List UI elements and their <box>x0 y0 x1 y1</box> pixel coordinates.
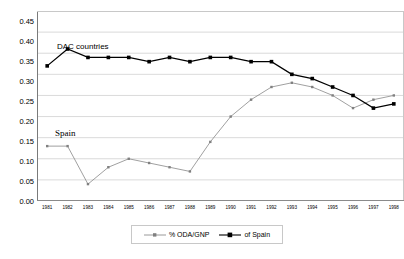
chart-legend: % ODA/GNP of Spain <box>131 225 283 244</box>
y-axis-tick-label: 0.20 <box>4 117 34 126</box>
y-axis-tick-label: 0.05 <box>4 177 34 186</box>
data-point-marker <box>46 145 48 147</box>
data-point-marker <box>147 60 151 64</box>
data-point-marker <box>331 94 333 96</box>
legend-marker-of-spain <box>219 231 241 239</box>
data-point-marker <box>86 56 90 60</box>
data-point-marker <box>310 77 314 81</box>
data-point-marker <box>229 115 231 117</box>
data-point-marker <box>189 170 191 172</box>
series-line <box>47 83 394 184</box>
x-axis-tick-label: 1986 <box>139 205 159 210</box>
x-axis-tick-label: 1987 <box>160 205 180 210</box>
y-axis-tick-label: 0.00 <box>4 197 34 206</box>
data-point-marker <box>372 106 376 110</box>
data-point-marker <box>311 86 313 88</box>
annotation-dac-countries: DAC countries <box>57 42 109 51</box>
chart-container: 0.45 0.40 0.35 0.30 0.25 0.20 0.15 0.10 … <box>0 0 404 259</box>
data-point-marker <box>128 158 130 160</box>
x-axis-tick-label: 1982 <box>58 205 78 210</box>
data-point-marker <box>392 102 396 106</box>
y-axis-tick-label: 0.25 <box>4 97 34 106</box>
x-axis-tick-label: 1988 <box>180 205 200 210</box>
data-point-marker <box>87 183 89 185</box>
data-point-marker <box>188 60 192 64</box>
data-point-marker <box>127 56 131 60</box>
data-point-marker <box>291 82 293 84</box>
y-axis-tick-label: 0.40 <box>4 37 34 46</box>
x-axis-tick-label: 1981 <box>37 205 57 210</box>
data-point-marker <box>393 94 395 96</box>
x-axis-tick-label: 1983 <box>78 205 98 210</box>
data-point-marker <box>270 60 274 64</box>
x-axis-tick-label: 1996 <box>343 205 363 210</box>
data-point-marker <box>250 98 252 100</box>
y-axis-tick-label: 0.10 <box>4 157 34 166</box>
x-axis-tick-label: 1994 <box>302 205 322 210</box>
data-point-marker <box>229 56 233 60</box>
x-axis-tick-label: 1989 <box>200 205 220 210</box>
y-axis-tick-label: 0.15 <box>4 137 34 146</box>
data-point-marker <box>372 98 374 100</box>
x-axis-tick-label: 1993 <box>282 205 302 210</box>
legend-label-of-spain: of Spain <box>244 231 270 238</box>
legend-marker-oda-gnp <box>144 231 166 239</box>
data-point-marker <box>45 64 49 68</box>
data-point-marker <box>351 94 355 98</box>
data-point-marker <box>249 60 253 64</box>
data-point-marker <box>107 56 111 60</box>
data-point-marker <box>270 86 272 88</box>
legend-item-oda-gnp: % ODA/GNP <box>144 231 209 239</box>
annotation-spain: Spain <box>55 128 76 138</box>
legend-item-of-spain: of Spain <box>219 231 270 239</box>
y-axis-tick-label: 0.30 <box>4 77 34 86</box>
x-axis-tick-label: 1990 <box>221 205 241 210</box>
data-point-marker <box>209 56 213 60</box>
data-point-marker <box>168 56 172 60</box>
x-axis-tick-label: 1992 <box>261 205 281 210</box>
data-point-marker <box>66 145 68 147</box>
y-axis-tick-label: 0.45 <box>4 17 34 26</box>
data-point-marker <box>331 85 335 89</box>
x-axis-tick-label: 1998 <box>384 205 404 210</box>
data-point-marker <box>107 166 109 168</box>
x-axis-tick-label: 1997 <box>363 205 383 210</box>
legend-label-oda-gnp: % ODA/GNP <box>169 231 209 238</box>
x-axis-tick-label: 1995 <box>323 205 343 210</box>
x-axis-tick-label: 1991 <box>241 205 261 210</box>
plot-area <box>37 11 404 201</box>
data-point-marker <box>148 162 150 164</box>
y-axis-tick-label: 0.35 <box>4 57 34 66</box>
x-axis-tick-label: 1985 <box>119 205 139 210</box>
series-line <box>47 49 394 108</box>
data-point-marker <box>290 73 294 77</box>
data-point-marker <box>209 141 211 143</box>
x-axis-tick-label: 1984 <box>98 205 118 210</box>
data-point-marker <box>168 166 170 168</box>
data-point-marker <box>352 107 354 109</box>
